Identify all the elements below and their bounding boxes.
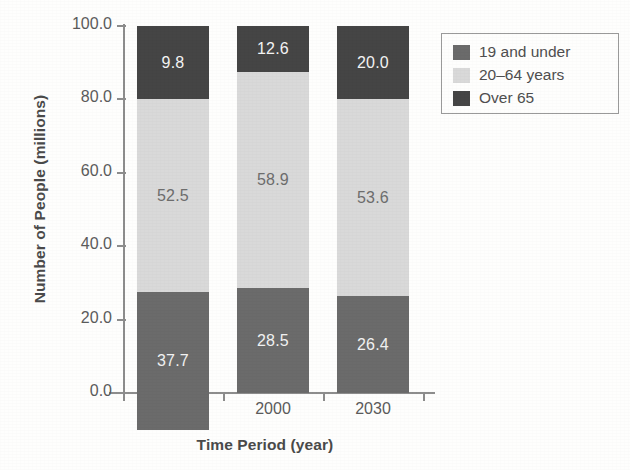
y-axis-line <box>123 24 125 395</box>
y-axis-tick-label: 80.0 <box>81 88 112 106</box>
x-axis-tick-mark <box>223 392 225 401</box>
legend-color-swatch <box>453 45 470 60</box>
legend-item[interactable]: Over 65 <box>453 87 618 109</box>
y-axis-tick-mark <box>117 98 126 100</box>
legend-item[interactable]: 19 and under <box>453 41 618 63</box>
x-axis-tick-mark <box>323 392 325 401</box>
bar-segment[interactable]: 37.7 <box>137 292 209 430</box>
y-axis-tick-label: 100.0 <box>72 15 112 33</box>
bar-segment[interactable]: 52.5 <box>137 99 209 292</box>
bar-segment[interactable]: 53.6 <box>337 99 409 296</box>
bar-segment-value-label: 9.8 <box>162 54 185 72</box>
y-axis-tick-mark <box>117 245 126 247</box>
x-axis-title: Time Period (year) <box>100 436 430 454</box>
bar-2030[interactable]: 20.053.626.4 <box>337 26 409 393</box>
x-axis-tick-label: 2000 <box>228 400 318 418</box>
stacked-bar-chart: Number of People (millions) 100.080.060.… <box>0 0 630 470</box>
legend-item-label: 19 and under <box>479 43 570 61</box>
legend-item-label: 20–64 years <box>479 66 564 84</box>
y-axis-title: Number of People (millions) <box>31 9 49 389</box>
x-axis-tick-mark <box>123 392 125 401</box>
bar-segment-value-label: 20.0 <box>357 54 389 72</box>
bar-segment-value-label: 53.6 <box>357 189 389 207</box>
bar-segment-value-label: 37.7 <box>157 352 189 370</box>
legend-color-swatch <box>453 91 470 106</box>
y-axis-tick-label: 0.0 <box>90 382 112 400</box>
bar-segment[interactable]: 9.8 <box>137 26 209 99</box>
x-axis-tick-label: 2030 <box>328 400 418 418</box>
legend-item-label: Over 65 <box>479 89 534 107</box>
y-axis-tick-mark <box>117 25 126 27</box>
y-axis-tick-mark <box>117 319 126 321</box>
legend-color-swatch <box>453 68 470 83</box>
y-axis-tick-label: 40.0 <box>81 235 112 253</box>
legend-item[interactable]: 20–64 years <box>453 64 618 86</box>
bar-segment[interactable]: 28.5 <box>237 288 309 393</box>
y-axis-tick-mark <box>117 172 126 174</box>
bar-segment-value-label: 26.4 <box>357 336 389 354</box>
bar-segment[interactable]: 12.6 <box>237 26 309 72</box>
bar-segment-value-label: 12.6 <box>257 40 289 58</box>
chart-legend: 19 and under20–64 yearsOver 65 <box>441 33 619 114</box>
bar-2000[interactable]: 12.658.928.5 <box>237 26 309 393</box>
bar-segment-value-label: 28.5 <box>257 332 289 350</box>
bar-segment[interactable]: 20.0 <box>337 26 409 99</box>
bar-segment[interactable]: 58.9 <box>237 72 309 288</box>
y-axis-tick-label: 20.0 <box>81 309 112 327</box>
bar-segment-value-label: 58.9 <box>257 171 289 189</box>
y-axis-tick-label: 60.0 <box>81 162 112 180</box>
bar-segment-value-label: 52.5 <box>157 187 189 205</box>
bar-1970[interactable]: 9.852.537.7 <box>137 26 209 393</box>
bar-segment[interactable]: 26.4 <box>337 296 409 393</box>
x-axis-tick-mark <box>423 392 425 401</box>
plot-area: 9.852.537.712.658.928.520.053.626.4 <box>130 26 430 393</box>
